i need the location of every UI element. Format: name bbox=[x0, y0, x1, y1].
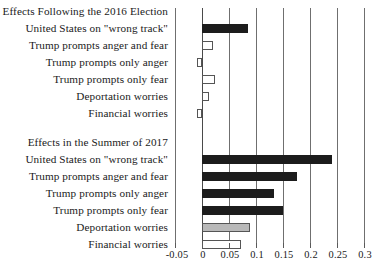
tick-0.15 bbox=[283, 243, 284, 248]
category-label-only-anger-2017: Trump prompts only anger bbox=[46, 185, 168, 202]
tick-0.3 bbox=[364, 243, 365, 248]
category-label-only-fear-2016: Trump prompts only fear bbox=[53, 71, 168, 88]
tick-0.2 bbox=[310, 243, 311, 248]
bar-only-anger-2017 bbox=[202, 189, 274, 198]
category-label-financial-2017: Financial worries bbox=[88, 236, 168, 253]
ticklabel-0: 0 bbox=[200, 249, 205, 260]
bar-deportation-2016 bbox=[202, 92, 209, 101]
ticklabel-0.05: 0.05 bbox=[221, 249, 240, 260]
bar-wrong-track-2017 bbox=[202, 155, 332, 164]
ticklabel-0.1: 0.1 bbox=[250, 249, 264, 260]
bar-anger-and-fear-2017 bbox=[202, 172, 297, 181]
bar-row-wrong-track-2016 bbox=[175, 20, 385, 37]
category-label-anger-and-fear-2016: Trump prompts anger and fear bbox=[29, 37, 168, 54]
panel-heading-2017: Effects in the Summer of 2017 bbox=[28, 134, 168, 151]
bar-row-anger-and-fear-2016 bbox=[175, 37, 385, 54]
bar-row-only-fear-2017 bbox=[175, 202, 385, 219]
bar-deportation-2017 bbox=[202, 223, 250, 232]
bar-rows bbox=[175, 0, 385, 243]
bar-wrong-track-2016 bbox=[202, 24, 248, 33]
tick-0 bbox=[202, 243, 203, 248]
ticklabel-0.15: 0.15 bbox=[275, 249, 294, 260]
bar-row-only-anger-2016 bbox=[175, 54, 385, 71]
bar-financial-2017 bbox=[202, 240, 241, 249]
bar-only-fear-2016 bbox=[202, 75, 215, 84]
ticklabel-0.2: 0.2 bbox=[304, 249, 318, 260]
plot-area bbox=[175, 0, 385, 243]
bar-only-anger-2016 bbox=[197, 58, 202, 67]
category-label-only-fear-2017: Trump prompts only fear bbox=[53, 202, 168, 219]
tick-0.1 bbox=[256, 243, 257, 248]
category-label-deportation-2017: Deportation worries bbox=[76, 219, 168, 236]
bar-financial-2016 bbox=[197, 109, 202, 118]
category-axis-labels: Effects Following the 2016 Election Unit… bbox=[0, 0, 172, 243]
ticklabel--0.05: -0.05 bbox=[166, 249, 189, 260]
bar-row-deportation-2016 bbox=[175, 88, 385, 105]
category-label-anger-and-fear-2017: Trump prompts anger and fear bbox=[29, 168, 168, 185]
ticklabel-0.3: 0.3 bbox=[358, 249, 372, 260]
bar-row-only-fear-2016 bbox=[175, 71, 385, 88]
tick--0.05 bbox=[175, 243, 176, 248]
bar-anger-and-fear-2016 bbox=[202, 41, 213, 50]
bar-row-deportation-2017 bbox=[175, 219, 385, 236]
bar-row-anger-and-fear-2017 bbox=[175, 168, 385, 185]
bar-row-wrong-track-2017 bbox=[175, 151, 385, 168]
ticklabel-0.25: 0.25 bbox=[329, 249, 348, 260]
tick-0.25 bbox=[337, 243, 338, 248]
bar-chart: Effects Following the 2016 Election Unit… bbox=[0, 0, 390, 265]
category-label-wrong-track-2016: United States on "wrong track" bbox=[25, 20, 168, 37]
tick-0.05 bbox=[229, 243, 230, 248]
category-label-financial-2016: Financial worries bbox=[88, 105, 168, 122]
category-label-only-anger-2016: Trump prompts only anger bbox=[46, 54, 168, 71]
bar-only-fear-2017 bbox=[202, 206, 283, 215]
bar-row-financial-2016 bbox=[175, 105, 385, 122]
category-label-wrong-track-2017: United States on "wrong track" bbox=[25, 151, 168, 168]
bar-row-only-anger-2017 bbox=[175, 185, 385, 202]
category-label-deportation-2016: Deportation worries bbox=[76, 88, 168, 105]
panel-heading-2016: Effects Following the 2016 Election bbox=[3, 3, 168, 20]
